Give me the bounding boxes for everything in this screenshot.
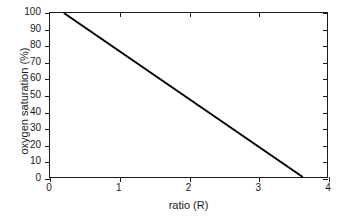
y-tick-mark bbox=[45, 113, 50, 114]
y-tick-mark-right bbox=[323, 63, 328, 64]
y-tick-mark bbox=[45, 63, 50, 64]
y-tick-mark bbox=[45, 96, 50, 97]
y-tick-mark-right bbox=[323, 30, 328, 31]
y-tick-mark-right bbox=[323, 46, 328, 47]
y-tick-mark bbox=[45, 79, 50, 80]
y-tick-mark bbox=[45, 30, 50, 31]
y-tick-mark bbox=[45, 162, 50, 163]
y-tick-mark bbox=[45, 129, 50, 130]
y-tick-mark-right bbox=[323, 162, 328, 163]
y-tick-mark-right bbox=[323, 146, 328, 147]
y-tick-mark-right bbox=[323, 179, 328, 180]
y-tick-mark bbox=[45, 13, 50, 14]
x-tick-label: 3 bbox=[255, 183, 261, 193]
x-tick-label: 2 bbox=[186, 183, 192, 193]
x-tick-label: 0 bbox=[46, 183, 52, 193]
x-tick-mark bbox=[50, 177, 51, 182]
x-tick-mark-top bbox=[120, 12, 121, 17]
y-tick-mark-right bbox=[323, 129, 328, 130]
x-tick-mark bbox=[120, 177, 121, 182]
y-tick-mark bbox=[45, 146, 50, 147]
plot-area bbox=[49, 12, 328, 178]
x-axis-title: ratio (R) bbox=[49, 199, 328, 211]
data-line-svg bbox=[50, 13, 327, 177]
x-tick-mark-top bbox=[259, 12, 260, 17]
y-tick-mark-right bbox=[323, 113, 328, 114]
data-series-line bbox=[64, 13, 303, 177]
x-tick-mark bbox=[259, 177, 260, 182]
y-tick-mark bbox=[45, 46, 50, 47]
x-tick-label: 1 bbox=[116, 183, 122, 193]
chart-figure: oxygen saturation (%) 010203040506070809… bbox=[0, 0, 341, 221]
x-tick-label: 4 bbox=[325, 183, 331, 193]
y-tick-mark-right bbox=[323, 13, 328, 14]
x-tick-mark bbox=[190, 177, 191, 182]
y-tick-mark-right bbox=[323, 79, 328, 80]
x-tick-mark bbox=[329, 177, 330, 182]
y-tick-mark-right bbox=[323, 96, 328, 97]
x-tick-mark-top bbox=[190, 12, 191, 17]
